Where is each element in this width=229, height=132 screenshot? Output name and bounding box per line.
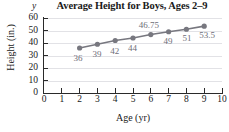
gridline <box>44 81 222 82</box>
y-axis-tick-label: 60 <box>22 12 38 22</box>
data-point-label: 46.75 <box>139 20 159 30</box>
gridline <box>44 31 222 32</box>
y-axis-letter: y <box>32 1 36 11</box>
y-axis-tick-label: 40 <box>22 37 38 47</box>
y-axis-tick-label: 20 <box>22 62 38 72</box>
x-axis-tick-label: 7 <box>162 94 176 104</box>
x-axis-tick-label: 10 <box>215 94 229 104</box>
y-axis-tick <box>44 80 48 81</box>
x-axis-tick-label: 9 <box>197 94 211 104</box>
gridline <box>44 68 222 69</box>
x-axis-tick <box>204 88 205 93</box>
y-axis-tick-label: 30 <box>22 50 38 60</box>
x-axis-tick-label: 2 <box>73 94 87 104</box>
height-vs-age-line-chart: Average Height for Boys, Ages 2–9 y Heig… <box>0 0 229 132</box>
x-axis-tick-label: 0 <box>37 94 51 104</box>
x-axis-tick <box>133 88 134 93</box>
x-axis-title: Age (yr) <box>40 112 226 123</box>
x-axis-tick <box>186 88 187 93</box>
x-axis-tick-label: 3 <box>90 94 104 104</box>
x-axis-tick <box>61 88 62 93</box>
data-point-label: 36 <box>74 53 83 63</box>
x-axis-tick-label: 1 <box>55 94 69 104</box>
y-axis-tick-label: 10 <box>22 75 38 85</box>
y-axis-tick-label: 0 <box>22 87 38 97</box>
y-axis-tick <box>44 68 48 69</box>
x-axis-tick <box>222 88 223 93</box>
plot-area <box>44 18 222 93</box>
gridline <box>44 56 222 57</box>
y-axis-tick <box>44 43 48 44</box>
x-axis-tick <box>150 88 151 93</box>
x-axis-tick-label: 8 <box>179 94 193 104</box>
x-axis-tick-label: 4 <box>108 94 122 104</box>
data-point-label: 39 <box>92 49 101 59</box>
y-axis-title: Height (in.) <box>5 12 16 84</box>
chart-title: Average Height for Boys, Ages 2–9 <box>47 0 217 11</box>
data-point-label: 49 <box>164 36 173 46</box>
x-axis-tick <box>168 88 169 93</box>
y-axis-tick <box>44 55 48 56</box>
x-axis-tick <box>97 88 98 93</box>
data-point-label: 44 <box>128 43 137 53</box>
y-axis-tick <box>44 18 48 19</box>
x-axis-tick <box>79 88 80 93</box>
x-axis-tick <box>115 88 116 93</box>
data-point-label: 53.5 <box>199 30 215 40</box>
x-axis-tick-label: 6 <box>144 94 158 104</box>
gridline <box>44 18 222 19</box>
y-axis-tick <box>44 30 48 31</box>
data-point-label: 42 <box>110 46 119 56</box>
x-axis-tick-label: 5 <box>126 94 140 104</box>
y-axis-tick-label: 50 <box>22 25 38 35</box>
data-point-label: 51 <box>182 33 191 43</box>
